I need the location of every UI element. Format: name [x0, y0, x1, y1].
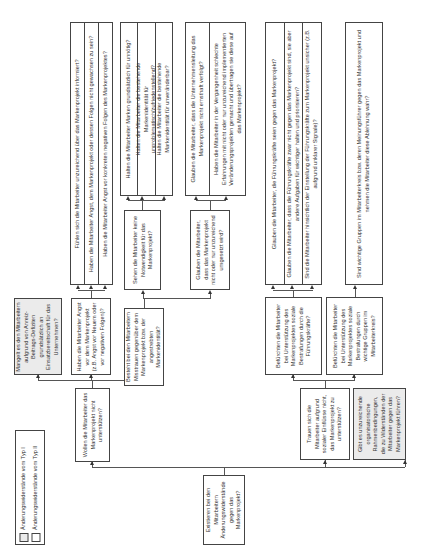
connector	[142, 200, 143, 210]
root-node: Existieren bei den Mitarbeitern Änderung…	[203, 475, 245, 545]
arrow-icon	[353, 285, 357, 289]
connector-root	[92, 467, 405, 468]
connector	[293, 380, 355, 381]
legend-item-type1: Änderungswiderstände vom Typ I	[20, 434, 29, 542]
arrow-icon	[89, 285, 93, 289]
arrow-icon	[224, 196, 228, 200]
connector-root-stem	[224, 467, 225, 475]
node-befuerchten-fuehrungskraefte: Befürchten die Mitarbeiter bei Unterstüt…	[265, 297, 322, 375]
connector	[210, 200, 211, 210]
arrow-icon	[162, 196, 166, 200]
arrow-icon	[208, 290, 212, 294]
connector	[196, 200, 226, 201]
connector	[143, 298, 211, 299]
connector	[273, 290, 313, 291]
node-gibt-es: Gibt es unzureichende organisatorische R…	[353, 388, 406, 460]
node-sehen: Sehen die Mitarbeiter keine Notwendigkei…	[124, 210, 161, 290]
leaf-schlechte-erfahrungen: Haben die Mitarbeiter in der Vergangenhe…	[209, 23, 245, 195]
legend-item-type2: Änderungswiderstände vom Typ II	[32, 434, 41, 542]
leaf-group-sehen: Halten die Mitarbeiter Marken grundsätzl…	[120, 22, 173, 196]
node-besteht: Besteht bei den Mitarbeitern Misstrauen …	[124, 308, 164, 386]
leaf-fk-gegen: Glauben die Mitarbeiter, die Führungskrä…	[266, 23, 284, 284]
leaf-fk-prioritaeten: Glauben die Mitarbeiter, dass die Führun…	[284, 23, 303, 284]
arrow-icon	[140, 196, 144, 200]
legend-swatch-type2	[32, 533, 41, 542]
arrow-icon	[103, 285, 107, 289]
leaf-wichtige-gruppen: Sind wichtige Gruppen im Mitarbeiterkrei…	[345, 22, 383, 285]
arrow-icon	[290, 285, 294, 289]
node-glauben: Glauben die Mitarbeiter, dass das Marken…	[190, 210, 230, 290]
leaf-fk-unsicher: Sind die Mitarbeiter hinsichtlich der Ei…	[302, 23, 321, 284]
arrow-icon	[141, 290, 145, 294]
connector	[325, 380, 326, 388]
node-wollen: Wollen die Mitarbeiter das Markenprojekt…	[75, 388, 110, 462]
connector	[293, 290, 294, 297]
leaf-group-fuehrungskraefte: Glauben die Mitarbeiter, die Führungskrä…	[265, 22, 322, 285]
node-befuerchten-gruppen: Befürchten die Mitarbeiter bei Unterstüt…	[326, 297, 383, 375]
connector	[78, 290, 105, 291]
node-angst: Haben die Mitarbeiter Angst vor dem Mark…	[71, 298, 111, 375]
leaf-informiert: Fühlen sich die Mitarbeiter unzureichend…	[71, 23, 84, 284]
leaf-negative-folgen: Haben die Mitarbeiter Angst vor konkrete…	[98, 23, 112, 284]
arrow-icon	[126, 196, 130, 200]
arrow-icon	[271, 285, 275, 289]
leaf-group-glauben: Glauben die Mitarbeiter, dass die Untern…	[185, 22, 246, 196]
arrow-icon	[194, 196, 198, 200]
legend: Änderungswiderstände vom Typ I Änderungs…	[15, 430, 45, 545]
arrow-icon	[310, 285, 314, 289]
leaf-unproblematisch: Halten die Mitarbeiter die bestehende Ma…	[137, 23, 154, 195]
leaf-group-angst: Fühlen sich die Mitarbeiter unzureichend…	[70, 22, 113, 285]
arrow-icon	[76, 285, 80, 289]
leaf-unveraenderbar: Halten die Mitarbeiter die bestehende Ma…	[155, 23, 172, 195]
node-mangelt: Mangelt es den Mitarbeitern aufgrund von…	[14, 298, 62, 375]
connector	[92, 380, 93, 388]
connector	[91, 290, 92, 298]
leaf-unternehmensleitung: Glauben die Mitarbeiter, dass die Untern…	[186, 23, 209, 195]
connector	[144, 298, 145, 308]
connector	[128, 200, 165, 201]
connector	[355, 288, 356, 297]
leaf-nicht-gewachsen: Haben die Mitarbeiter Angst, dem Markenp…	[84, 23, 98, 284]
arrow-icon	[403, 460, 407, 464]
legend-swatch-type1	[20, 533, 29, 542]
node-trauen: Trauen sich die Mitarbeiter aufgrund soz…	[300, 388, 350, 460]
arrow-icon	[323, 460, 327, 464]
